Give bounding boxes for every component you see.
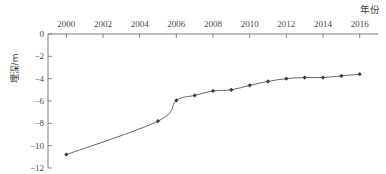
y-tick-label: −10 — [18, 141, 44, 151]
y-tick-label: −6 — [18, 96, 44, 106]
y-tick-label: 0 — [18, 29, 44, 39]
y-tick-label: −2 — [18, 51, 44, 61]
x-tick-label: 2014 — [314, 19, 332, 29]
x-tick-label: 2002 — [94, 19, 112, 29]
x-tick-label: 2008 — [204, 19, 222, 29]
axis-ticks — [48, 34, 360, 168]
y-tick-label: −4 — [18, 74, 44, 84]
x-tick-label: 2000 — [57, 19, 75, 29]
x-tick-label: 2010 — [241, 19, 259, 29]
axis-lines — [48, 34, 378, 168]
data-series — [64, 72, 362, 157]
y-tick-label: −8 — [18, 118, 44, 128]
chart-container: 年份 埋深/m 20002002200420062008201020122014… — [0, 0, 386, 174]
x-tick-label: 2006 — [167, 19, 185, 29]
x-tick-label: 2016 — [351, 19, 369, 29]
y-tick-label: −12 — [18, 163, 44, 173]
x-tick-label: 2012 — [277, 19, 295, 29]
x-tick-label: 2004 — [131, 19, 149, 29]
